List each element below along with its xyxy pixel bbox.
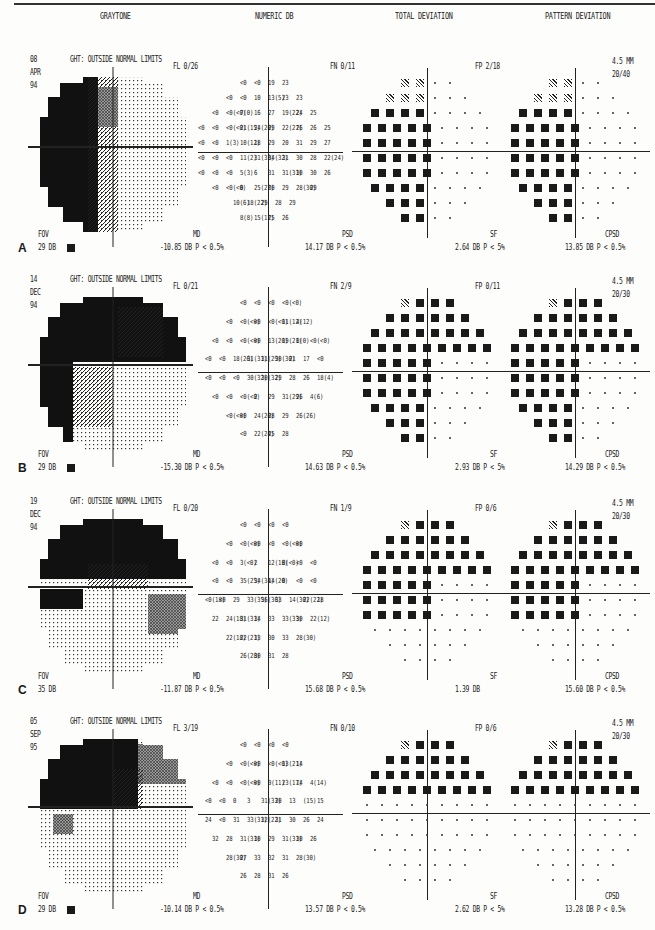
threshold-value: <0 [219,816,226,824]
p05-symbol [423,359,431,367]
psd-value: 14.17 DB P < 0.5% [305,243,365,252]
p05-symbol [556,374,564,382]
p05-symbol [363,566,371,574]
deviation-symbol [468,610,477,619]
normal-symbol [464,407,466,409]
deviation-symbol [400,550,409,559]
threshold-value: 31 [268,652,275,660]
p05-symbol [461,314,469,322]
deviation-symbol [453,815,462,824]
threshold-value: <0 [212,184,219,192]
deviation-symbol [385,860,394,869]
deviation-symbol [578,213,587,222]
normal-symbol [471,157,473,159]
deviation-symbol [438,610,447,619]
deviation-symbol [378,595,387,604]
p05-symbol [408,139,416,147]
p05-symbol [511,139,519,147]
deviation-symbol [563,433,572,442]
threshold-value: 25 [324,124,331,132]
deviation-symbol [548,313,557,322]
normal-symbol [597,187,599,189]
normal-symbol [426,834,428,836]
deviation-symbol [363,610,372,619]
deviation-symbol [548,535,557,544]
threshold-value: <0 [254,760,261,768]
deviation-symbol [608,313,617,322]
threshold-value: 19 [268,79,275,87]
threshold-value: 33 [275,596,282,604]
deviation-symbol [511,800,520,809]
p05-symbol [438,786,446,794]
field-panel-b: 14DEC94GHT: OUTSIDE NORMAL LIMITSFL 0/21… [0,275,655,485]
threshold-value: <0 [282,521,289,529]
deviation-symbol [483,785,492,794]
threshold-value: 1(3) [226,139,239,147]
normal-symbol [604,157,606,159]
p05-symbol [549,536,557,544]
deviation-symbol [475,183,484,192]
p05-symbol [401,756,409,764]
normal-symbol [456,392,458,394]
p2-symbol [549,79,557,87]
deviation-symbol [563,78,572,87]
p05-symbol [624,329,632,337]
p05-symbol [446,741,454,749]
p05-symbol [519,551,527,559]
graytone-map [28,729,193,909]
p05-symbol [416,521,424,529]
panel-label: C [18,683,27,697]
deviation-symbol [548,328,557,337]
total-deviation-plot [352,293,502,458]
p05-symbol [579,314,587,322]
p05-symbol [564,109,572,117]
threshold-value: 33 [254,854,261,862]
normal-symbol [374,849,376,851]
deviation-symbol [483,815,492,824]
normal-symbol [559,819,561,821]
deviation-symbol [511,830,520,839]
threshold-value: 30 [268,634,275,642]
normal-symbol [589,127,591,129]
deviation-symbol [601,123,610,132]
pattern-deviation-plot [500,293,650,458]
deviation-symbol [548,183,557,192]
p05-symbol [556,581,564,589]
deviation-symbol [385,313,394,322]
normal-symbol [464,97,466,99]
normal-symbol [619,142,621,144]
deviation-symbol [608,550,617,559]
deviation-symbol [475,845,484,854]
deviation-symbol [453,388,462,397]
p05-symbol [468,786,476,794]
deviation-symbol [438,565,447,574]
threshold-value: 8(8) [240,214,253,222]
deviation-symbol [385,403,394,412]
deviation-symbol [378,123,387,132]
threshold-value: <0 [212,124,219,132]
normal-symbol [456,172,458,174]
p05-symbol [609,536,617,544]
deviation-symbol [415,198,424,207]
threshold-value: <0 [310,559,317,567]
cpsd-value: 14.29 DB P < 0.5% [565,463,625,472]
deviation-symbol [483,830,492,839]
deviation-symbol [593,755,602,764]
threshold-value: <0 [212,169,219,177]
normal-symbol [449,407,451,409]
deviation-symbol [563,740,572,749]
normal-symbol [589,362,591,364]
threshold-value: <0 [219,797,226,805]
deviation-symbol [415,860,424,869]
normal-symbol [582,112,584,114]
deviation-symbol [430,875,439,884]
normal-symbol [464,422,466,424]
normal-symbol [464,112,466,114]
deviation-symbol [518,845,527,854]
p05-symbol [461,551,469,559]
deviation-symbol [385,183,394,192]
p05-symbol [549,434,557,442]
deviation-symbol [393,388,402,397]
normal-symbol [612,112,614,114]
normal-symbol [544,804,546,806]
